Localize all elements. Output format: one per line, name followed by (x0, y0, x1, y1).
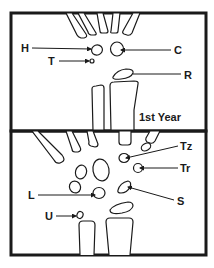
metacarpals-top (66, 13, 140, 38)
label-radius: R (184, 69, 192, 81)
caption-1st-year: 1st Year (139, 111, 182, 123)
label-trapezium: Tr (180, 162, 191, 174)
panel-bottom: Tz Tr L S U (11, 131, 206, 255)
capitate-center (111, 42, 124, 56)
leader-trapezoid (126, 146, 178, 158)
triquetrum-b (67, 179, 82, 195)
label-lunate: L (28, 189, 35, 201)
label-trapezoid: Tz (180, 140, 193, 152)
capitate-b (91, 158, 111, 182)
label-hamate: H (21, 42, 29, 54)
metacarpal-b5 (146, 131, 160, 143)
radius-bottom (106, 218, 133, 255)
wrist-ossification-diagram: H T C R 1st Year (0, 0, 214, 268)
label-ulna: U (45, 210, 53, 222)
label-triquetrum: T (48, 55, 55, 67)
triquetrum-center (90, 59, 94, 63)
metacarpal-b1 (32, 131, 64, 163)
metacarpals-bottom (32, 131, 160, 163)
metacarpal-b3 (87, 131, 98, 147)
hamate-b (74, 164, 88, 180)
label-capitate: C (174, 44, 182, 56)
lunate-center (93, 188, 105, 199)
radius-epiphysis-b (110, 202, 133, 214)
metacarpal-b4 (119, 131, 131, 145)
panel-top: H T C R 1st Year (11, 13, 206, 131)
leader-scaphoid (128, 187, 174, 200)
metacarpal-b2 (66, 131, 81, 152)
metacarpal-4 (111, 13, 120, 33)
ulna-bottom (79, 221, 95, 255)
leader-hamate (32, 48, 91, 49)
metacarpal-5 (123, 13, 140, 35)
label-scaphoid: S (177, 195, 184, 207)
ulna-top (92, 85, 104, 131)
ulna-epiphysis (76, 211, 84, 220)
radius-epiphysis (113, 69, 133, 79)
metacarpal-3 (97, 13, 108, 33)
radius-top (110, 81, 138, 131)
hamate-center (90, 43, 104, 56)
